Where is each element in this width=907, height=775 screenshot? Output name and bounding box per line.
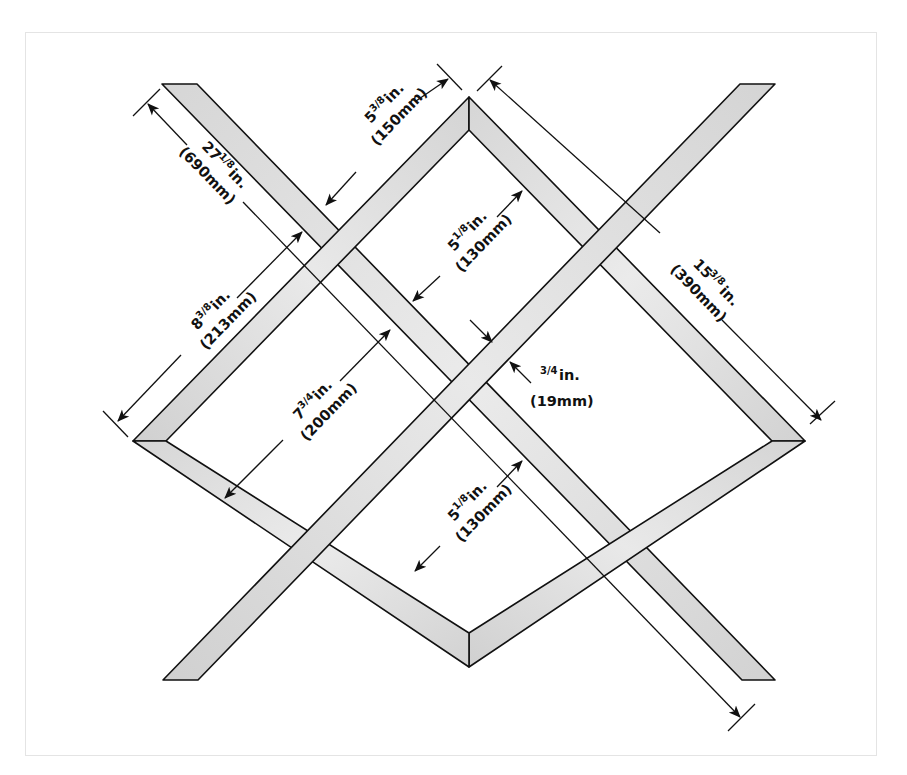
dim-line-left-opening-b [225,440,283,498]
dim-line-lower-opening-b [415,546,440,571]
label-thickness-metric: (19mm) [530,393,594,409]
wine-rack-diagram: 27 1/8 in. (690mm) 5 3/8 in. (150mm) 15 … [0,0,907,775]
label-left-opening: 7 3/4 in. (200mm) [281,365,360,444]
label-thickness-fraction: 3/4 [540,365,558,376]
dim-line-slat-length-a [148,104,187,145]
dim-line-top-side-c [326,172,356,205]
dim-line-thickness-b [510,362,531,383]
frame-side-top-right [469,97,805,441]
label-stock-thickness: 3/4 in. (19mm) [530,365,594,409]
label-thickness-unit: in. [559,367,580,383]
frame-side-bottom-right [469,441,805,667]
dim-line-left-opening-a [340,330,390,381]
label-top-side: 5 3/8 in. (150mm) [352,69,431,148]
dim-line-upper-opening-b [413,276,440,301]
label-lower-opening: 5 1/8 in. (130mm) [436,466,515,545]
dim-line-thickness-a [470,320,492,342]
extension-tick-top-a [437,64,462,90]
label-upper-opening: 5 1/8 in. (130mm) [436,196,515,275]
